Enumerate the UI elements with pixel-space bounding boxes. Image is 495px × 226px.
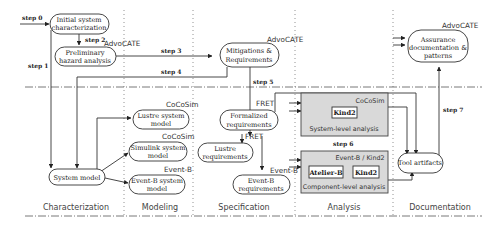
svg-text:Lustre: Lustre (214, 145, 236, 153)
svg-text:Event-B system: Event-B system (131, 177, 184, 185)
svg-text:Mitigations &: Mitigations & (226, 47, 272, 55)
step-5-label: step 5 (253, 78, 273, 86)
column-characterization: Characterization (43, 203, 109, 212)
svg-text:Lustre system: Lustre system (137, 112, 185, 120)
svg-text:model: model (147, 185, 167, 193)
svg-text:Kind2: Kind2 (333, 109, 355, 117)
node-preliminary-hazard-analysis: Preliminary hazard analysis AdvoCATE (55, 39, 141, 66)
workflow-diagram: Characterization Modeling Specification … (0, 0, 495, 226)
step-3-label: step 3 (161, 47, 181, 55)
column-analysis: Analysis (328, 203, 361, 212)
svg-text:Simulink system: Simulink system (131, 144, 187, 152)
node-lustre-requirements: Lustre requirements FRET (198, 132, 264, 162)
panel-system-level-analysis: CoCoSim Kind2 System-level analysis (301, 93, 388, 136)
svg-text:Event-B: Event-B (248, 177, 275, 185)
svg-text:model: model (151, 120, 171, 128)
svg-text:model: model (148, 152, 168, 160)
node-system-model: System model (49, 169, 105, 185)
svg-text:characterization: characterization (52, 24, 108, 32)
step-0-label: step 0 (22, 14, 42, 22)
column-specification: Specification (218, 203, 269, 212)
node-mitigations-requirements: Mitigations & Requirements AdvoCATE (220, 35, 304, 67)
node-initial-system-characterization: Initial system characterization (50, 14, 109, 34)
panel-component-level-analysis: Event-B / Kind2 Atelier-B Kind2 Componen… (301, 151, 388, 193)
svg-text:requirements: requirements (238, 185, 284, 193)
step-4-label: step 4 (161, 68, 181, 76)
svg-text:documentation &: documentation & (409, 44, 467, 52)
node-tool-artifacts: Tool artifacts (398, 153, 443, 173)
column-documentation: Documentation (409, 203, 471, 212)
node-assurance-documentation: Assurance documentation & patterns AdvoC… (408, 21, 479, 62)
svg-text:Formalized: Formalized (230, 112, 268, 120)
node-formalized-requirements: Formalized requirements FRET (220, 99, 278, 130)
svg-text:Kind2: Kind2 (355, 169, 377, 177)
svg-text:FRET: FRET (245, 132, 264, 141)
step-6-label: step 6 (333, 140, 353, 148)
svg-text:Event-B / Kind2: Event-B / Kind2 (335, 154, 384, 162)
step-7-label: step 7 (443, 106, 463, 114)
svg-text:CoCoSim: CoCoSim (356, 97, 385, 105)
node-eventb-system-model: Event-B system model Event-B (129, 165, 192, 194)
svg-text:Preliminary: Preliminary (65, 49, 104, 57)
svg-text:requirements: requirements (202, 153, 248, 161)
svg-text:Component-level analysis: Component-level analysis (303, 183, 386, 191)
svg-text:CoCoSim: CoCoSim (166, 100, 198, 109)
svg-text:Event-B: Event-B (270, 166, 298, 175)
svg-text:Event-B: Event-B (164, 165, 192, 174)
svg-text:Tool artifacts: Tool artifacts (398, 159, 443, 167)
svg-text:System model: System model (54, 174, 101, 182)
svg-text:System-level analysis: System-level analysis (309, 125, 379, 133)
node-simulink-system-model: Simulink system model CoCoSim (129, 132, 194, 161)
svg-text:Assurance: Assurance (420, 36, 456, 44)
step-2-label: step 2 (85, 36, 105, 44)
column-modeling: Modeling (142, 203, 178, 212)
svg-text:requirements: requirements (226, 121, 272, 129)
svg-text:Requirements: Requirements (226, 56, 274, 64)
svg-text:Initial system: Initial system (56, 16, 102, 24)
svg-text:AdvoCATE: AdvoCATE (442, 21, 479, 30)
svg-text:AdvoCATE: AdvoCATE (104, 39, 141, 48)
svg-text:CoCoSim: CoCoSim (162, 132, 194, 141)
svg-text:Atelier-B: Atelier-B (308, 169, 343, 177)
svg-text:hazard analysis: hazard analysis (59, 57, 111, 65)
svg-text:FRET: FRET (256, 99, 275, 108)
step-1-label: step 1 (28, 62, 48, 70)
svg-text:AdvoCATE: AdvoCATE (267, 35, 304, 44)
node-eventb-requirements: Event-B requirements Event-B (233, 166, 298, 194)
svg-text:patterns: patterns (424, 52, 453, 60)
node-lustre-system-model: Lustre system model CoCoSim (133, 100, 198, 129)
